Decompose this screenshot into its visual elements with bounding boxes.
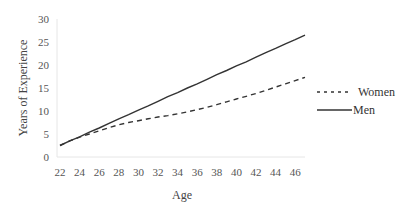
- x-tick-label: 36: [192, 166, 204, 178]
- y-tick-label: 10: [38, 105, 50, 117]
- x-tick-label: 38: [211, 166, 223, 178]
- line-chart: 051015202530 22242628303234363840424446 …: [0, 0, 414, 211]
- y-tick-label: 0: [44, 151, 50, 163]
- legend-label-men: Men: [353, 103, 375, 117]
- x-tick-label: 46: [290, 166, 302, 178]
- y-axis-title: Years of Experience: [16, 40, 30, 137]
- x-axis: 22242628303234363840424446: [55, 157, 306, 178]
- x-tick-label: 26: [94, 166, 106, 178]
- x-tick-label: 40: [231, 166, 243, 178]
- legend-label-women: Women: [358, 85, 395, 99]
- x-axis-title: Age: [172, 188, 192, 202]
- series-group: [60, 35, 305, 145]
- x-tick-label: 42: [251, 166, 262, 178]
- x-tick-label: 32: [153, 166, 164, 178]
- x-tick-label: 44: [270, 166, 282, 178]
- series-line-women: [60, 77, 305, 145]
- y-tick-label: 30: [38, 13, 50, 25]
- x-tick-label: 22: [55, 166, 66, 178]
- legend: WomenMen: [317, 85, 395, 117]
- y-tick-label: 5: [44, 128, 50, 140]
- y-tick-label: 20: [38, 59, 50, 71]
- x-tick-label: 28: [113, 166, 125, 178]
- y-tick-label: 15: [38, 82, 50, 94]
- series-line-men: [60, 35, 305, 145]
- x-tick-label: 34: [172, 166, 184, 178]
- y-tick-label: 25: [38, 36, 50, 48]
- y-axis: 051015202530: [38, 13, 57, 163]
- x-tick-label: 30: [133, 166, 145, 178]
- x-tick-label: 24: [74, 166, 86, 178]
